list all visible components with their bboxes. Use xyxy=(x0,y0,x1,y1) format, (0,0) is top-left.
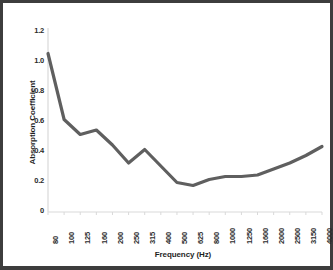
x-axis-ticks: 8010012516020025031540050062580010001250… xyxy=(0,0,333,270)
x-tick-label: 1600 xyxy=(261,228,270,244)
x-tick-label: 1250 xyxy=(245,228,254,244)
x-tick-label: 125 xyxy=(83,232,92,244)
x-tick-label: 160 xyxy=(100,232,109,244)
x-axis-title: Frequency (Hz) xyxy=(48,250,318,259)
x-tick-label: 4000 xyxy=(325,228,333,244)
x-tick-label: 500 xyxy=(180,232,189,244)
x-tick-label: 2500 xyxy=(293,228,302,244)
x-tick-label: 100 xyxy=(67,232,76,244)
x-tick-label: 315 xyxy=(148,232,157,244)
x-tick-label: 800 xyxy=(212,232,221,244)
x-tick-label: 3150 xyxy=(309,228,318,244)
x-tick-label: 2000 xyxy=(277,228,286,244)
x-tick-label: 625 xyxy=(196,232,205,244)
y-axis-title: Absorption Coefficient xyxy=(28,63,37,183)
x-tick-label: 400 xyxy=(164,232,173,244)
x-tick-label: 1000 xyxy=(228,228,237,244)
x-tick-label: 200 xyxy=(116,232,125,244)
x-tick-label: 250 xyxy=(132,232,141,244)
x-tick-label: 80 xyxy=(51,236,60,244)
chart-figure: 00.20.40.60.81.01.2 80100125160200250315… xyxy=(0,0,333,270)
y-axis-title-wrap: Absorption Coefficient xyxy=(14,0,28,270)
